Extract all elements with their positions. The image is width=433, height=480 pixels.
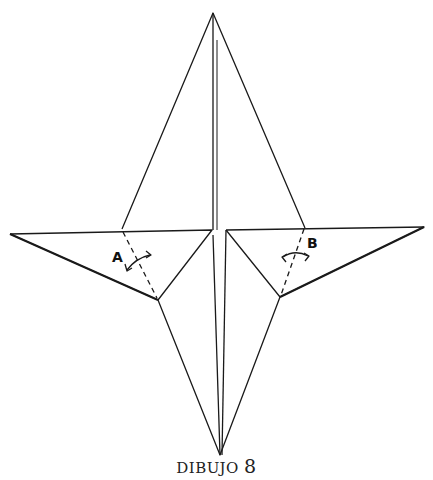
right-wing bbox=[226, 227, 424, 297]
caption-number: 8 bbox=[244, 455, 257, 477]
left-wing bbox=[10, 230, 212, 300]
figure-caption: DIBUJO 8 bbox=[0, 455, 433, 477]
label-a: A bbox=[112, 249, 123, 265]
origami-diagram: A B bbox=[0, 0, 433, 480]
fold-line-b bbox=[281, 229, 304, 295]
fold-line-a bbox=[123, 232, 157, 298]
label-b: B bbox=[307, 235, 318, 251]
caption-prefix: DIBUJO bbox=[176, 459, 239, 477]
